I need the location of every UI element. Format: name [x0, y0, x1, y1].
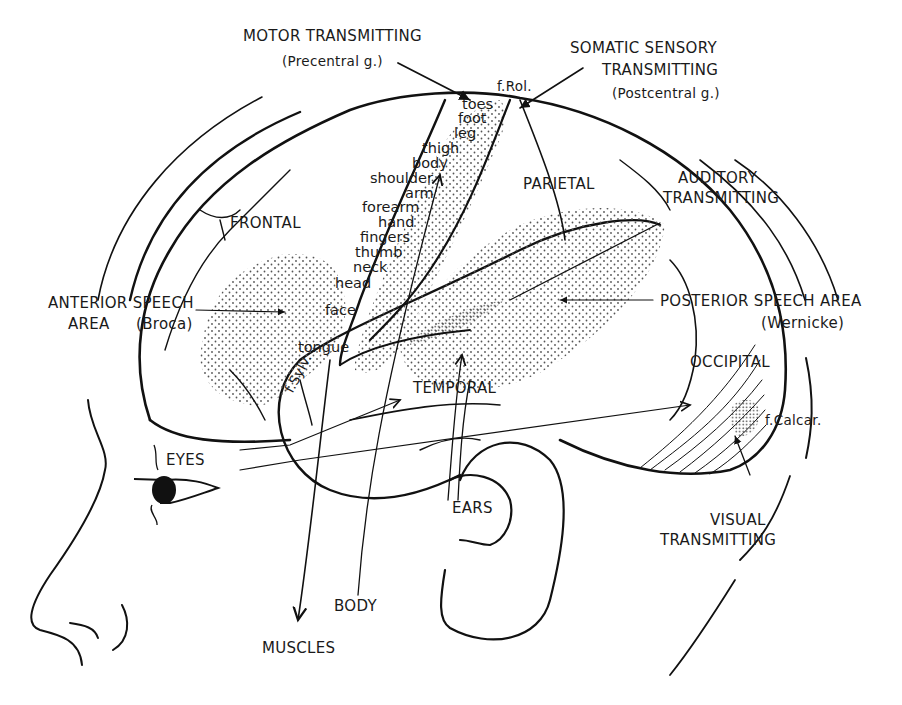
homunculus-forearm: forearm [362, 200, 419, 215]
homunculus-thumb: thumb [355, 245, 402, 260]
temporal-lobe-label: TEMPORAL [413, 380, 496, 397]
eyes-label: EYES [166, 452, 205, 469]
homunculus-shoulder: shoulder [370, 171, 433, 186]
ears-label: EARS [452, 500, 493, 517]
muscles-label: MUSCLES [262, 640, 335, 657]
parietal-lobe-label: PARIETAL [523, 176, 595, 193]
homunculus-neck: neck [353, 260, 387, 275]
broca-region [200, 254, 345, 406]
fissure-calcarine-label: f.Calcar. [765, 413, 822, 428]
auditory-transmitting-label-line2: TRANSMITTING [663, 190, 779, 207]
visual-transmitting-label-line2: TRANSMITTING [660, 532, 776, 549]
motor-transmitting-label: MOTOR TRANSMITTING [243, 28, 422, 45]
posterior-speech-label: POSTERIOR SPEECH AREA [660, 293, 862, 310]
homunculus-tongue: tongue [298, 340, 349, 355]
wernicke-label: (Wernicke) [761, 315, 844, 332]
homunculus-face: face [325, 303, 356, 318]
visual-transmitting-label-line1: VISUAL [710, 512, 766, 529]
homunculus-thigh: thigh [422, 141, 459, 156]
homunculus-foot: foot [458, 111, 487, 126]
broca-label: (Broca) [136, 316, 193, 333]
homunculus-leg: leg [454, 126, 476, 141]
face-profile [31, 400, 127, 665]
precentral-gyrus-label: (Precentral g.) [282, 54, 383, 69]
homunculus-body: body [412, 156, 448, 171]
anterior-speech-label-line2: AREA [68, 316, 110, 333]
somatic-sensory-label-line2: TRANSMITTING [602, 62, 718, 79]
homunculus-fingers: fingers [360, 230, 410, 245]
somatic-sensory-label-line1: SOMATIC SENSORY [570, 40, 717, 57]
auditory-transmitting-label-line1: AUDITORY [678, 170, 757, 187]
homunculus-hand: hand [378, 215, 414, 230]
fissure-rolando-label: f.Rol. [497, 79, 532, 94]
homunculus-head: head [335, 276, 371, 291]
anterior-speech-label-line1: ANTERIOR SPEECH [48, 295, 194, 312]
body-label: BODY [334, 598, 377, 615]
occipital-lobe-label: OCCIPITAL [690, 354, 770, 371]
postcentral-gyrus-label: (Postcentral g.) [612, 86, 720, 101]
frontal-lobe-label: FRONTAL [230, 215, 301, 232]
